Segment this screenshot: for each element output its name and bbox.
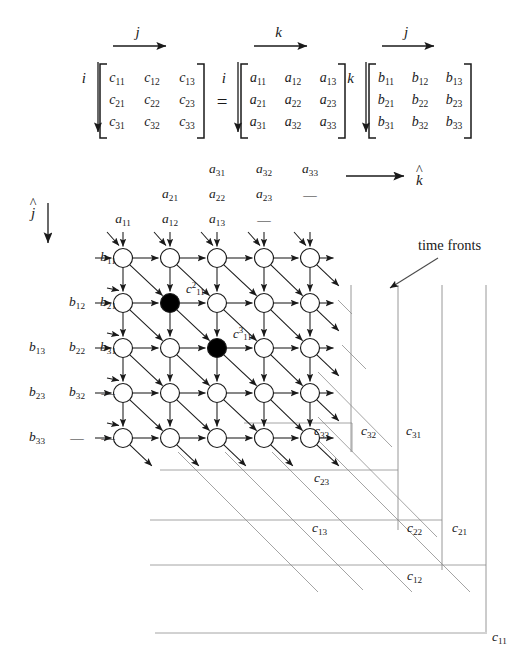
output-label-c23: c23 — [314, 471, 329, 487]
pe-node-r2c4[interactable] — [255, 294, 274, 313]
output-diagonal-3 — [318, 440, 470, 592]
link-diagonal-r5c1 — [130, 445, 152, 466]
link-diagonal-r1c1 — [130, 265, 163, 296]
left-input-b33: b33 — [29, 430, 45, 446]
pe-node-r1c2[interactable] — [161, 249, 180, 268]
pe-node-r1c1[interactable] — [114, 249, 133, 268]
k-axis-label: ^k — [416, 173, 423, 188]
link-diagonal-r5c5 — [317, 445, 339, 466]
matrix-element-b32: b32 — [412, 115, 429, 131]
matrix-bracket-left — [369, 64, 376, 138]
matrix-col-index-label-a: k — [275, 25, 282, 40]
top-input-empty-3-4: — — [257, 213, 271, 227]
equation-equals-sign: = — [217, 92, 228, 111]
link-diagonal-r4c3 — [224, 400, 257, 431]
left-input-b11: b11 — [100, 250, 116, 266]
pe-node-r5c4[interactable] — [255, 429, 274, 448]
matrix-element-a32: a32 — [285, 115, 302, 131]
left-input-b12: b12 — [69, 295, 85, 311]
pe-node-r5c3[interactable] — [208, 429, 227, 448]
link-diagonal-r4c2 — [177, 400, 210, 431]
top-input-a32: a32 — [256, 162, 272, 178]
output-diagonal-6 — [178, 452, 318, 592]
link-diagonal-r4c5 — [317, 400, 339, 421]
left-input-b22: b22 — [69, 340, 85, 356]
figure-canvas: jic11c12c13c21c22c23c31c32c33kia11a12a13… — [0, 0, 528, 667]
left-input-b21: b21 — [100, 295, 116, 311]
matrix-element-a12: a12 — [285, 71, 302, 87]
highlighted-node-label-2: c311 — [233, 326, 252, 342]
pe-node-r3c2[interactable] — [161, 339, 180, 358]
matrix-element-a21: a21 — [250, 93, 267, 109]
matrix-element-b23: b23 — [446, 93, 463, 109]
j-axis-label: ^j — [31, 206, 35, 221]
output-diagonal-7 — [338, 300, 352, 314]
matrix-element-a23: a23 — [320, 93, 337, 109]
pe-node-r1c4[interactable] — [255, 249, 274, 268]
pe-node-r4c2[interactable] — [161, 384, 180, 403]
matrix-element-c11: c11 — [109, 71, 124, 87]
pe-node-r5c1[interactable] — [114, 429, 133, 448]
output-label-c13: c13 — [312, 521, 327, 537]
output-diagonal-8 — [342, 345, 366, 369]
matrix-element-c23: c23 — [179, 93, 195, 109]
pe-node-r3c3[interactable] — [208, 339, 227, 358]
pe-node-r5c2[interactable] — [161, 429, 180, 448]
pe-node-r3c4[interactable] — [255, 339, 274, 358]
pe-node-r2c3[interactable] — [208, 294, 227, 313]
matrix-element-c22: c22 — [144, 93, 160, 109]
matrix-element-c32: c32 — [144, 115, 160, 131]
matrix-bracket-right — [197, 64, 204, 138]
link-diagonal-r3c5 — [317, 355, 339, 376]
pe-node-r3c1[interactable] — [114, 339, 133, 358]
top-input-a22: a22 — [209, 187, 225, 203]
link-diagonal-r5c4 — [271, 445, 293, 466]
matrix-element-b22: b22 — [412, 93, 429, 109]
feed-left-diagonal-r5 — [107, 423, 119, 426]
matrix-element-b11: b11 — [378, 71, 394, 87]
pe-node-r4c3[interactable] — [208, 384, 227, 403]
pe-node-r3c5[interactable] — [301, 339, 320, 358]
output-label-c32: c32 — [361, 424, 376, 440]
left-input-b23: b23 — [29, 385, 45, 401]
link-diagonal-r3c3 — [224, 355, 257, 386]
left-input-empty-5-2: — — [70, 431, 84, 445]
output-diagonal-5 — [225, 452, 363, 590]
output-label-c31: c31 — [406, 424, 421, 440]
output-label-c21: c21 — [452, 521, 467, 537]
top-input-a12: a12 — [162, 212, 178, 228]
matrix-col-index-label-c: j — [135, 25, 139, 40]
matrix-element-a13: a13 — [320, 71, 337, 87]
pe-node-r4c1[interactable] — [114, 384, 133, 403]
matrix-element-c21: c21 — [109, 93, 125, 109]
link-diagonal-r2c2 — [177, 310, 210, 341]
left-input-b31: b31 — [100, 340, 116, 356]
matrix-element-b31: b31 — [378, 115, 395, 131]
matrix-row-index-label-a: i — [222, 71, 226, 86]
matrix-element-a31: a31 — [250, 115, 267, 131]
matrix-bracket-right — [338, 64, 345, 138]
highlighted-node-label-1: c211 — [186, 281, 205, 297]
matrix-element-c12: c12 — [144, 71, 160, 87]
feed-top-diagonal-c1 — [107, 232, 119, 246]
feed-left-diagonal-r4 — [107, 378, 119, 381]
matrix-element-b12: b12 — [412, 71, 429, 87]
pe-node-r2c5[interactable] — [301, 294, 320, 313]
left-input-b32: b32 — [69, 385, 85, 401]
top-input-empty-2-5: — — [303, 188, 317, 202]
link-diagonal-r1c5 — [317, 265, 339, 286]
pe-node-r4c4[interactable] — [255, 384, 274, 403]
output-label-c22: c22 — [407, 521, 422, 537]
left-input-empty-4-3: — — [101, 386, 115, 400]
top-input-a31: a31 — [209, 162, 225, 178]
pe-node-r4c5[interactable] — [301, 384, 320, 403]
pe-node-r1c3[interactable] — [208, 249, 227, 268]
feed-left-diagonal-r3 — [107, 333, 119, 336]
pe-node-r2c1[interactable] — [114, 294, 133, 313]
matrix-element-c33: c33 — [179, 115, 195, 131]
link-diagonal-r3c4 — [271, 355, 303, 386]
pe-node-r1c5[interactable] — [301, 249, 320, 268]
left-input-b13: b13 — [29, 340, 45, 356]
link-diagonal-r2c1 — [130, 310, 163, 341]
pe-node-r2c2[interactable] — [161, 294, 180, 313]
